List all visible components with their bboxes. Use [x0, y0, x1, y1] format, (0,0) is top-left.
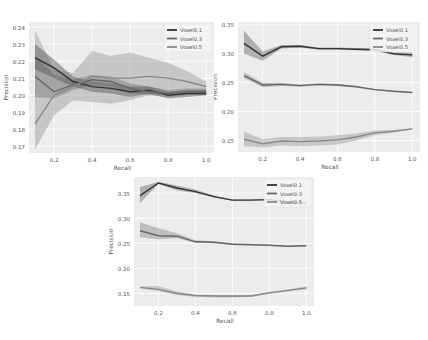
y-tick-label: 0.30 [118, 216, 131, 222]
x-tick-label: 0.4 [88, 157, 97, 163]
legend-label: Voxel0.1 [180, 27, 202, 33]
y-tick-label: 0.22 [13, 59, 25, 65]
chart-bottom-center: 0.150.200.250.300.350.20.40.60.81.0Voxel… [100, 170, 328, 340]
y-tick-label: 0.20 [222, 109, 235, 115]
legend-label: Voxel0.1 [386, 27, 408, 33]
y-axis-label: Precision [214, 74, 218, 100]
x-tick-label: 0.2 [154, 310, 163, 316]
y-axis-label: Precision [3, 74, 9, 100]
legend: Voxel0.1Voxel0.3Voxel0.5 [264, 179, 312, 207]
legend-label: Voxel0.5 [280, 199, 302, 205]
x-tick-label: 0.6 [228, 310, 237, 316]
y-tick-label: 0.20 [118, 266, 131, 272]
y-tick-label: 0.19 [13, 110, 26, 116]
y-tick-label: 0.35 [118, 191, 131, 197]
x-tick-label: 1.0 [302, 310, 311, 316]
legend-label: Voxel0.5 [386, 44, 408, 50]
x-tick-label: 0.6 [126, 157, 135, 163]
y-tick-label: 0.21 [13, 76, 25, 82]
x-tick-label: 0.4 [191, 310, 200, 316]
x-axis-label: Recall [216, 318, 234, 324]
y-tick-label: 0.17 [13, 144, 26, 150]
x-tick-label: 0.8 [265, 310, 274, 316]
y-tick-label: 0.20 [13, 93, 26, 99]
legend-label: Voxel0.3 [180, 36, 202, 42]
y-tick-label: 0.35 [222, 22, 235, 28]
x-tick-label: 0.8 [164, 157, 173, 163]
y-tick-label: 0.15 [118, 291, 131, 297]
legend-label: Voxel0.1 [280, 182, 302, 188]
x-tick-label: 1.0 [202, 157, 211, 163]
y-tick-label: 0.15 [222, 138, 235, 144]
x-tick-label: 0.2 [258, 156, 267, 162]
x-tick-label: 0.2 [50, 157, 59, 163]
y-tick-label: 0.18 [13, 127, 26, 133]
chart-top-right: 0.150.200.250.300.350.20.40.60.81.0Voxel… [214, 0, 428, 172]
chart-top-left: 0.170.180.190.200.210.220.230.240.20.40.… [0, 0, 214, 172]
x-tick-label: 0.8 [370, 156, 379, 162]
y-tick-label: 0.25 [222, 80, 235, 86]
legend-label: Voxel0.3 [386, 36, 408, 42]
legend-label: Voxel0.5 [180, 44, 202, 50]
x-tick-label: 0.4 [296, 156, 305, 162]
y-tick-label: 0.30 [222, 51, 235, 57]
y-tick-label: 0.24 [13, 25, 26, 31]
y-tick-label: 0.23 [13, 42, 26, 48]
x-tick-label: 1.0 [408, 156, 417, 162]
legend: Voxel0.1Voxel0.3Voxel0.5 [370, 24, 418, 52]
legend: Voxel0.1Voxel0.3Voxel0.5 [164, 24, 212, 52]
x-tick-label: 0.6 [333, 156, 342, 162]
y-tick-label: 0.25 [118, 241, 131, 247]
legend-label: Voxel0.3 [280, 191, 302, 197]
y-axis-label: Precision [108, 228, 114, 254]
